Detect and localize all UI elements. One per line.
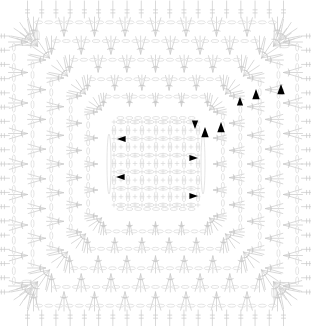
round-start-marker — [192, 120, 198, 129]
crochet-chart-canvas — [0, 0, 311, 326]
round-start-marker — [201, 127, 208, 137]
round-start-marker — [116, 174, 125, 180]
round-start-marker — [277, 84, 284, 94]
round-6 — [28, 36, 284, 292]
crochet-diagram — [0, 0, 311, 326]
round-5 — [47, 55, 265, 273]
round-start-marker — [217, 122, 224, 132]
